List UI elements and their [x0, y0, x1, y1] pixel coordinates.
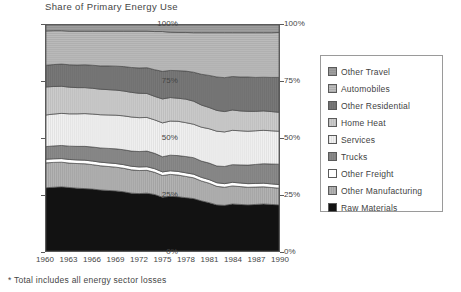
y-tick-mark-right: [280, 252, 284, 253]
x-axis-label: 1963: [60, 255, 78, 264]
footnote: * Total includes all energy sector losse…: [8, 275, 166, 285]
y-axis-label-right: 50%: [284, 134, 300, 142]
legend-item[interactable]: Other Travel: [328, 63, 442, 80]
y-axis-label-left: 75%: [162, 77, 178, 85]
legend-label: Trucks: [341, 152, 367, 162]
legend-swatch: [328, 84, 337, 93]
legend-item[interactable]: Raw Materials: [328, 199, 442, 216]
x-axis: 1960196319661969197219751978198119841987…: [45, 255, 280, 267]
x-axis-label: 1981: [201, 255, 219, 264]
legend-label: Services: [341, 135, 375, 145]
legend-label: Other Travel: [341, 67, 390, 77]
y-axis-label-right: 100%: [284, 20, 305, 28]
y-tick-mark-right: [280, 81, 284, 82]
y-tick-mark-left: [41, 252, 45, 253]
legend-item[interactable]: Automobiles: [328, 80, 442, 97]
legend-swatch: [328, 169, 337, 178]
legend-item[interactable]: Other Residential: [328, 97, 442, 114]
y-tick-mark-left: [41, 24, 45, 25]
legend-swatch: [328, 135, 337, 144]
y-tick-mark-left: [41, 138, 45, 139]
chart-legend: Other TravelAutomobilesOther Residential…: [320, 55, 443, 212]
legend-label: Other Freight: [341, 169, 394, 179]
legend-swatch: [328, 101, 337, 110]
x-axis-label: 1987: [248, 255, 266, 264]
legend-swatch: [328, 152, 337, 161]
legend-label: Home Heat: [341, 118, 386, 128]
legend-label: Other Manufacturing: [341, 186, 422, 196]
legend-label: Raw Materials: [341, 203, 397, 213]
y-axis-label-right: 75%: [284, 77, 300, 85]
y-tick-mark-right: [280, 195, 284, 196]
y-tick-mark-left: [41, 81, 45, 82]
legend-item[interactable]: Services: [328, 131, 442, 148]
legend-swatch: [328, 203, 337, 212]
legend-item[interactable]: Other Manufacturing: [328, 182, 442, 199]
x-axis-label: 1978: [177, 255, 195, 264]
chart-root: Share of Primary Energy Use 100%75%50%25…: [0, 0, 461, 292]
legend-label: Other Residential: [341, 101, 410, 111]
y-axis-label-left: 50%: [162, 134, 178, 142]
y-axis-label-left: 100%: [157, 20, 178, 28]
legend-label: Automobiles: [341, 84, 390, 94]
y-axis-label-left: 25%: [162, 191, 178, 199]
legend-item[interactable]: Trucks: [328, 148, 442, 165]
x-axis-label: 1966: [83, 255, 101, 264]
x-axis-label: 1960: [36, 255, 54, 264]
x-axis-label: 1990: [271, 255, 289, 264]
y-tick-mark-left: [41, 195, 45, 196]
x-axis-label: 1984: [224, 255, 242, 264]
y-tick-mark-right: [280, 138, 284, 139]
y-tick-mark-right: [280, 24, 284, 25]
legend-swatch: [328, 186, 337, 195]
x-axis-label: 1975: [154, 255, 172, 264]
x-axis-label: 1972: [130, 255, 148, 264]
x-axis-label: 1969: [107, 255, 125, 264]
legend-item[interactable]: Other Freight: [328, 165, 442, 182]
y-axis-label-right: 25%: [284, 191, 300, 199]
legend-item[interactable]: Home Heat: [328, 114, 442, 131]
legend-swatch: [328, 67, 337, 76]
chart-title: Share of Primary Energy Use: [45, 1, 178, 12]
legend-swatch: [328, 118, 337, 127]
